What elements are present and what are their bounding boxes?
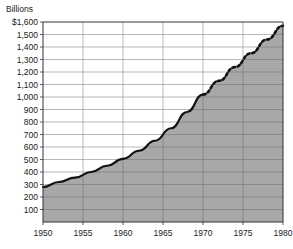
x-tick-label: 1960: [114, 228, 133, 238]
x-tick-label: 1955: [74, 228, 93, 238]
y-tick-label: $1,600: [12, 17, 38, 27]
y-tick-label: 1,400: [17, 42, 39, 52]
y-tick-label: 1,100: [17, 80, 39, 90]
y-tick-label: 800: [24, 117, 38, 127]
x-tick-label: 1970: [194, 228, 213, 238]
y-tick-label: 1,000: [17, 92, 39, 102]
chart-container: Billions $1,6001,5001,4001,3001,2001,100…: [0, 0, 293, 249]
x-tick-label: 1975: [234, 228, 253, 238]
y-tick-label: 600: [24, 142, 38, 152]
y-tick-label: 200: [24, 192, 38, 202]
y-tick-label: 400: [24, 167, 38, 177]
x-tick-label: 1965: [154, 228, 173, 238]
y-tick-label: 100: [24, 205, 38, 215]
y-tick-label: 1,300: [17, 55, 39, 65]
y-tick-label: 700: [24, 130, 38, 140]
y-tick-label: 1,200: [17, 67, 39, 77]
x-tick-label: 1950: [34, 228, 53, 238]
billions-area-chart: Billions $1,6001,5001,4001,3001,2001,100…: [0, 0, 293, 249]
y-tick-label: 1,500: [17, 30, 39, 40]
y-tick-label: 500: [24, 155, 38, 165]
y-tick-label: 300: [24, 180, 38, 190]
y-tick-label: 900: [24, 105, 38, 115]
x-tick-label: 1980: [274, 228, 293, 238]
y-axis-title: Billions: [6, 4, 33, 14]
